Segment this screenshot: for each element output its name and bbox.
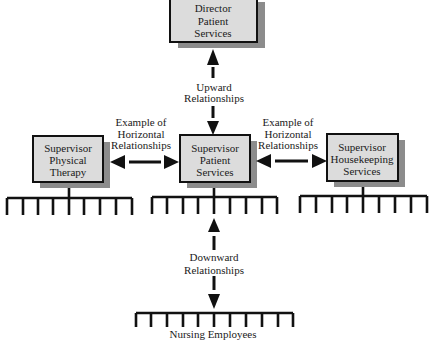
- node-label-line: Patient: [200, 154, 231, 166]
- arrow-left-icon: [110, 155, 125, 169]
- node-label-line: Supervisor: [191, 142, 239, 154]
- edge-horizontal-right: Example of Horizontal Relationships: [256, 116, 327, 168]
- subordinates-comb-patient-services: [152, 188, 277, 214]
- node-supervisor-physical-therapy: Supervisor Physical Therapy: [33, 136, 110, 188]
- edge-downward-relationships: Downward Relationships: [184, 218, 244, 309]
- arrow-down-icon: [208, 294, 220, 309]
- edge-horizontal-left: Example of Horizontal Relationships: [110, 116, 179, 169]
- node-label-line: Services: [343, 165, 380, 177]
- node-label-line: Patient: [198, 15, 229, 27]
- arrow-left-icon: [256, 154, 271, 168]
- edge-label-line: Relationships: [111, 139, 171, 151]
- arrow-up-icon: [207, 49, 219, 65]
- edge-label-line: Example of: [115, 116, 166, 128]
- node-label-line: Services: [194, 27, 231, 39]
- arrow-up-icon: [208, 218, 220, 232]
- nursing-employees-label: Nursing Employees: [169, 328, 256, 340]
- relationships-diagram: Director Patient Services Upward Relatio…: [0, 0, 432, 345]
- node-nursing-employees: Nursing Employees: [136, 313, 293, 340]
- arrow-down-icon: [207, 121, 219, 135]
- edge-label-line: Relationships: [258, 139, 318, 151]
- node-label-line: Director: [195, 2, 232, 14]
- node-supervisor-housekeeping-services: Supervisor Housekeeping Services: [327, 134, 405, 187]
- nursing-employees-comb: [136, 313, 293, 327]
- edge-label-line: Relationships: [184, 92, 244, 104]
- arrow-right-icon: [312, 154, 327, 168]
- subordinates-comb-physical-therapy: [7, 188, 132, 215]
- node-director-patient-services: Director Patient Services: [170, 0, 265, 48]
- edge-upward-relationships: Upward Relationships: [184, 49, 244, 135]
- node-supervisor-patient-services: Supervisor Patient Services: [180, 135, 257, 188]
- node-label-line: Supervisor: [44, 142, 92, 154]
- edge-label-line: Relationships: [184, 264, 244, 276]
- node-label-line: Supervisor: [338, 141, 386, 153]
- arrow-right-icon: [164, 155, 179, 169]
- subordinates-comb-housekeeping: [300, 187, 427, 213]
- node-label-line: Housekeeping: [331, 153, 394, 165]
- node-label-line: Services: [196, 166, 233, 178]
- node-label-line: Physical: [49, 154, 86, 166]
- edge-label-line: Downward: [190, 251, 239, 263]
- node-label-line: Therapy: [50, 166, 87, 178]
- edge-label-line: Example of: [262, 116, 313, 128]
